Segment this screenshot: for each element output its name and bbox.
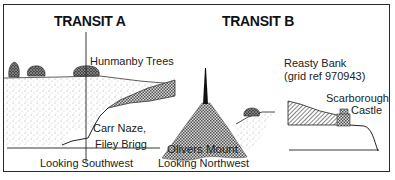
transit-b-title: TRANSIT B — [222, 13, 294, 29]
tree-2 — [27, 66, 45, 76]
radio-mast — [203, 68, 208, 104]
scarborough-bank-hatch — [288, 101, 342, 125]
transit-a-direction: Looking Southwest — [40, 157, 133, 169]
tree-1 — [9, 62, 20, 77]
castle-keep — [337, 114, 350, 126]
reasty-hill-stipple — [235, 112, 275, 150]
reasty-grid-ref-label: (grid ref 970943) — [284, 70, 365, 82]
tree-4 — [244, 108, 260, 116]
hunmanby-trees-label: Hunmanby Trees — [90, 55, 174, 67]
transit-a-art — [4, 32, 175, 162]
castle-headland-cliff — [350, 125, 378, 151]
reasty-bank-label: Reasty Bank — [284, 57, 346, 69]
transit-a-title: TRANSIT A — [54, 13, 125, 29]
filey-brigg-label: Filey Brigg — [95, 138, 147, 150]
land-stipple — [4, 76, 170, 145]
castle-label: Castle — [351, 104, 382, 116]
transit-b-direction: Looking Northwest — [158, 157, 249, 169]
carr-naze-label: Carr Naze, — [93, 122, 146, 134]
scarborough-label: Scarborough — [326, 92, 389, 104]
olivers-mount-label: Olivers Mount — [167, 143, 238, 155]
